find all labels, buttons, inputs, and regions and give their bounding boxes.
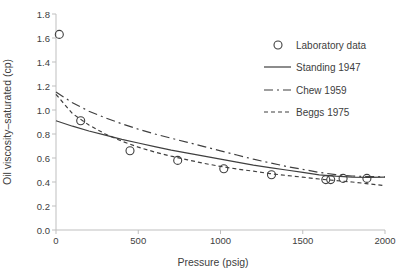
y-axis-tick-label: 1.8 bbox=[37, 9, 50, 20]
lab-data-point bbox=[220, 165, 228, 173]
viscosity-chart: 05001000150020000.00.20.40.60.81.01.21.4… bbox=[0, 0, 405, 277]
x-axis-tick-label: 500 bbox=[130, 235, 146, 246]
y-axis-tick-label: 1.6 bbox=[37, 33, 50, 44]
lab-data-point bbox=[126, 147, 134, 155]
y-axis-tick-label: 1.4 bbox=[37, 57, 50, 68]
lab-data-point bbox=[339, 174, 347, 182]
chart-svg: 05001000150020000.00.20.40.60.81.01.21.4… bbox=[0, 0, 405, 277]
y-axis-tick-label: 0.8 bbox=[37, 129, 50, 140]
lab-data-point bbox=[268, 171, 276, 179]
y-axis-tick-label: 0.4 bbox=[37, 177, 50, 188]
y-axis-tick-label: 0.2 bbox=[37, 201, 50, 212]
curve-standing-1947 bbox=[56, 121, 385, 178]
x-axis-tick-label: 1500 bbox=[292, 235, 313, 246]
legend-label: Beggs 1975 bbox=[296, 107, 350, 118]
legend: Laboratory dataStanding 1947Chew 1959Beg… bbox=[264, 40, 366, 118]
legend-circle-marker bbox=[274, 41, 282, 49]
x-axis-tick-label: 0 bbox=[53, 235, 58, 246]
y-axis-tick-label: 0.0 bbox=[37, 225, 50, 236]
legend-label: Laboratory data bbox=[296, 40, 366, 51]
x-axis-tick-label: 2000 bbox=[374, 235, 395, 246]
legend-label: Chew 1959 bbox=[296, 85, 347, 96]
y-axis-tick-label: 0.6 bbox=[37, 153, 50, 164]
legend-label: Standing 1947 bbox=[296, 62, 361, 73]
x-axis-title: Pressure (psig) bbox=[177, 256, 248, 268]
y-axis-tick-label: 1.2 bbox=[37, 81, 50, 92]
y-axis-title: Oil viscosity–saturated (cp) bbox=[1, 59, 13, 185]
x-axis-tick-label: 1000 bbox=[210, 235, 231, 246]
y-axis-tick-label: 1.0 bbox=[37, 105, 50, 116]
lab-data-point bbox=[363, 174, 371, 182]
